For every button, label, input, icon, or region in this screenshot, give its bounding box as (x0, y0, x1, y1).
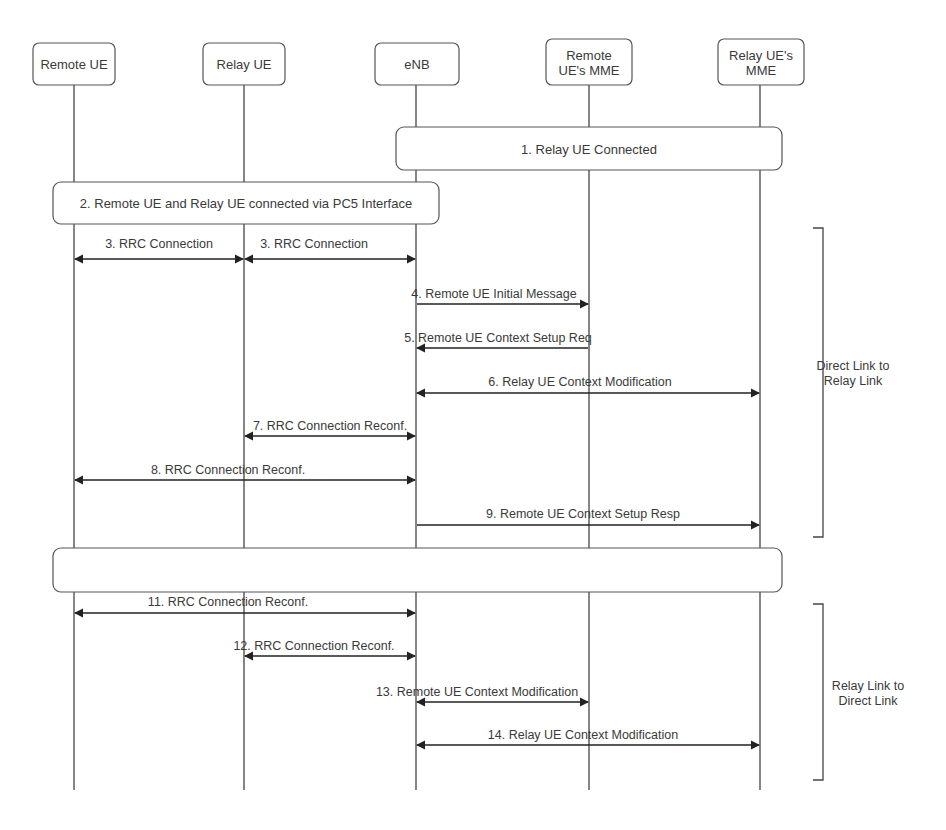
participants: Remote UERelay UEeNBRemoteUE's MMERelay … (33, 39, 804, 85)
spanning-box-step-2: 2. Remote UE and Relay UE connected via … (53, 182, 439, 224)
participant-label: Relay UE's (729, 48, 793, 63)
message-label: 3. RRC Connection (105, 237, 213, 251)
participant-relay-ue: Relay UE (203, 43, 285, 85)
message-label: 9. Remote UE Context Setup Resp (486, 507, 680, 521)
message-label: 13. Remote UE Context Modification (376, 685, 578, 699)
message-label: 11. RRC Connection Reconf. (148, 595, 308, 609)
spanning-boxes: 1. Relay UE Connected2. Remote UE and Re… (53, 127, 782, 592)
message-m11: 11. RRC Connection Reconf. (75, 595, 415, 613)
message-label: 14. Relay UE Context Modification (488, 728, 678, 742)
participant-label: Remote (566, 48, 612, 63)
participant-label: Remote UE (40, 57, 108, 72)
message-label: 5. Remote UE Context Setup Req (404, 331, 592, 345)
message-m7: 7. RRC Connection Reconf. (245, 419, 415, 436)
bracket-icon (813, 604, 823, 780)
phase-brackets: Direct Link toRelay LinkRelay Link toDir… (813, 228, 904, 780)
spanning-box-step-1: 1. Relay UE Connected (396, 127, 782, 170)
phase-direct-to-relay: Direct Link toRelay Link (813, 228, 890, 537)
participant-label: Relay UE (217, 57, 272, 72)
message-m6: 6. Relay UE Context Modification (417, 375, 759, 393)
participant-remote-ue-mme: RemoteUE's MME (546, 39, 632, 85)
messages: 3. RRC Connection3. RRC Connection4. Rem… (75, 237, 759, 745)
phase-label: Direct Link (838, 694, 898, 708)
message-m14: 14. Relay UE Context Modification (417, 728, 759, 745)
participant-enb: eNB (375, 43, 459, 85)
message-m8: 8. RRC Connection Reconf. (75, 463, 415, 480)
spanning-box-step-10 (53, 548, 782, 592)
phase-label: Relay Link (824, 374, 883, 388)
participant-remote-ue: Remote UE (33, 43, 115, 85)
message-label: 3. RRC Connection (260, 237, 368, 251)
message-label: 12. RRC Connection Reconf. (233, 639, 394, 653)
message-m9: 9. Remote UE Context Setup Resp (417, 507, 759, 525)
spanning-box-label: 1. Relay UE Connected (521, 142, 657, 157)
participant-label: MME (746, 63, 777, 78)
message-m5: 5. Remote UE Context Setup Req (404, 331, 592, 348)
message-label: 6. Relay UE Context Modification (488, 375, 671, 389)
bracket-icon (813, 228, 823, 537)
participant-label: UE's MME (559, 63, 620, 78)
message-label: 4. Remote UE Initial Message (411, 287, 576, 301)
phase-label: Direct Link to (817, 359, 890, 373)
message-m3a: 3. RRC Connection (75, 237, 243, 259)
sequence-diagram: Remote UERelay UEeNBRemoteUE's MMERelay … (0, 0, 946, 830)
message-label: 7. RRC Connection Reconf. (253, 419, 407, 433)
message-m13: 13. Remote UE Context Modification (376, 685, 588, 702)
phase-relay-to-direct: Relay Link toDirect Link (813, 604, 904, 780)
message-m12: 12. RRC Connection Reconf. (233, 639, 415, 656)
participant-label: eNB (404, 57, 429, 72)
message-m3b: 3. RRC Connection (245, 237, 415, 259)
participant-relay-ue-mme: Relay UE'sMME (718, 39, 804, 85)
phase-label: Relay Link to (832, 679, 904, 693)
message-m4: 4. Remote UE Initial Message (411, 287, 588, 304)
message-label: 8. RRC Connection Reconf. (151, 463, 305, 477)
spanning-box-label: 2. Remote UE and Relay UE connected via … (80, 196, 412, 211)
